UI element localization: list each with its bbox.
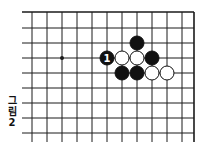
black-stone-icon [145, 51, 159, 65]
move-number-label: 1 [104, 53, 111, 64]
caption-char-geu: 그 [8, 95, 17, 106]
caption-figure-number: 2 [9, 117, 16, 128]
star-points [60, 56, 64, 60]
star-point-icon [60, 56, 64, 60]
white-stone-icon [130, 51, 144, 65]
black-stone-icon [130, 36, 144, 50]
figure-caption: 그 림 2 [4, 95, 20, 128]
caption-char-rim: 림 [8, 106, 17, 117]
black-stone-icon: 1 [100, 51, 114, 65]
white-stone-icon [145, 66, 159, 80]
white-stone-icon [115, 51, 129, 65]
black-stone-icon [115, 66, 129, 80]
go-board-diagram: 1 [0, 0, 208, 156]
white-stone-icon [160, 66, 174, 80]
black-stone-icon [130, 66, 144, 80]
